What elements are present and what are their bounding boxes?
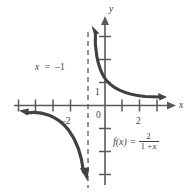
curve-right-up-arrowhead <box>92 26 100 35</box>
curve-left-branch <box>27 112 84 172</box>
formula-numerator: 2 <box>144 132 153 141</box>
formula-lhs: f(x) <box>113 136 127 147</box>
formula-denominator-one: 1 + <box>141 141 153 151</box>
graph-canvas: x y 0 –2 2 1 x = –1 <box>0 0 193 194</box>
y-axis-arrowhead <box>101 16 109 25</box>
formula-denominator: 1 +x <box>139 142 159 151</box>
asymptote-label-value: –1 <box>54 62 65 72</box>
x-tick-label-2: 2 <box>136 116 141 126</box>
x-axis-label: x <box>178 100 184 110</box>
formula-fraction: 2 1 +x <box>139 132 159 152</box>
asymptote-label-eq: = <box>45 62 50 72</box>
origin-label: 0 <box>96 110 101 120</box>
curve-left-end-arrowhead <box>19 109 29 116</box>
asymptote-label-var: x <box>34 62 40 72</box>
y-axis-label: y <box>108 4 114 14</box>
x-axis-arrowhead <box>167 102 176 110</box>
curve-left-branch-group <box>19 109 89 182</box>
x-axis-group <box>14 100 176 112</box>
y-tick-label-1: 1 <box>95 87 100 97</box>
curve-right-end-arrowhead <box>158 93 167 101</box>
asymptote-label: x = –1 <box>34 62 65 72</box>
curve-left-down-arrowhead <box>80 168 89 182</box>
function-graph-figure: x y 0 –2 2 1 x = –1 f(x) = 2 1 +x <box>0 0 193 194</box>
formula-equals: = <box>130 136 136 147</box>
formula-denominator-var: x <box>152 141 156 151</box>
y-axis-group <box>99 16 111 185</box>
x-tick-label-neg2: –2 <box>60 116 71 126</box>
function-formula: f(x) = 2 1 +x <box>113 132 159 152</box>
